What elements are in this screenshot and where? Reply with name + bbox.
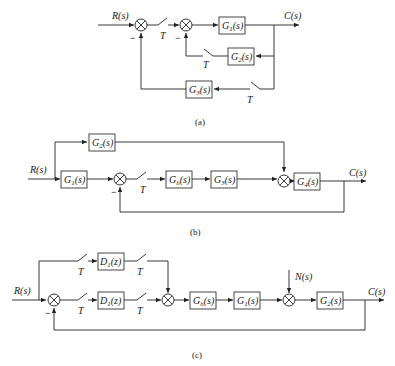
block-g3: G3(s) <box>211 171 237 188</box>
block-d1-bottom: D1(z) <box>98 292 124 309</box>
minus-sign: − <box>111 187 116 197</box>
disturbance-label-n: N(s) <box>294 271 313 283</box>
caption-a: (a) <box>195 117 205 127</box>
input-label-r: R(s) <box>13 285 31 297</box>
sampler-switch <box>78 254 87 261</box>
output-label-c: C(s) <box>284 10 302 22</box>
minus-sign: − <box>45 308 50 318</box>
block-g3: G3(s) <box>186 81 212 98</box>
sampler-label: T <box>78 266 85 277</box>
block-d1-top: D1(z) <box>98 253 124 270</box>
sampler-switch <box>251 82 260 89</box>
diagram-c: R(s) T D1(z) T − T D1(z) T <box>12 253 386 360</box>
sampler-label: T <box>203 59 210 70</box>
diagram-a: R(s) − T − G1(s) C(s) G2(s) <box>98 10 302 127</box>
sampler-label: T <box>137 305 144 316</box>
sampler-label: T <box>160 30 167 41</box>
sampler-switch <box>78 293 87 300</box>
minus-sign: − <box>130 33 135 43</box>
input-label-r: R(s) <box>111 10 129 22</box>
sampler-label: T <box>247 94 254 105</box>
summing-junction-1 <box>48 294 60 306</box>
minus-sign: − <box>175 33 180 43</box>
caption-c: (c) <box>192 350 202 360</box>
sampler-switch <box>137 172 146 179</box>
input-label-r: R(s) <box>29 164 47 176</box>
sampler-label: T <box>137 266 144 277</box>
block-g4: G4(s) <box>294 173 320 190</box>
summing-junction-1 <box>135 19 147 31</box>
summing-junction-1 <box>114 173 126 185</box>
sampler-label: T <box>78 305 85 316</box>
sampler-switch <box>204 49 213 56</box>
block-gh: Gh(s) <box>166 171 192 188</box>
sampler-label: T <box>140 184 147 195</box>
summing-junction-2 <box>162 294 174 306</box>
block-diagram-figure: R(s) − T − G1(s) C(s) G2(s) <box>0 0 395 366</box>
block-g1: G1(s) <box>61 171 87 188</box>
block-g1: G1(s) <box>234 292 260 309</box>
caption-b: (b) <box>190 227 201 237</box>
output-label-c: C(s) <box>349 167 367 179</box>
summing-junction-2 <box>278 175 290 187</box>
sampler-switch <box>158 18 167 25</box>
summing-junction-2 <box>180 19 192 31</box>
summing-junction-3 <box>283 294 295 306</box>
diagram-b: R(s) G2(s) G1(s) − T Gh(s) G3(s) <box>28 134 367 237</box>
block-g2: G2(s) <box>317 292 343 309</box>
output-label-c: C(s) <box>368 286 386 298</box>
sampler-switch <box>137 293 146 300</box>
block-g2: G2(s) <box>228 48 254 65</box>
sampler-switch <box>137 254 146 261</box>
block-gh: Gh(s) <box>190 292 216 309</box>
block-g1: G1(s) <box>219 17 245 34</box>
block-g2: G2(s) <box>89 134 115 151</box>
